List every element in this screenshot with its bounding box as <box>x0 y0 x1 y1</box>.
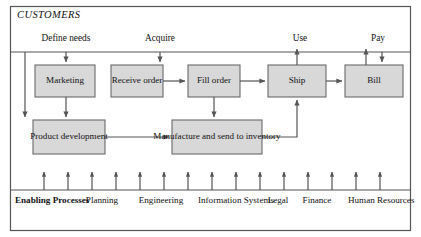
enabling-process-planning: Planning <box>76 196 128 206</box>
diagram-canvas: CUSTOMERS Define needs Acquire Use Pay M… <box>0 0 421 237</box>
customers-title: CUSTOMERS <box>17 9 81 20</box>
customer-activity-define-needs: Define needs <box>16 33 116 43</box>
process-box-fill-order: Fill order <box>188 65 240 97</box>
enabling-process-human-resources: Human Resources <box>348 196 406 206</box>
enabling-process-arrows <box>44 172 380 190</box>
enabling-process-engineering: Engineering <box>128 196 194 206</box>
process-box-manufacture-inventory: Manufacture and send to inventory <box>172 120 262 154</box>
process-box-receive-order: Receive order <box>111 65 163 97</box>
process-box-ship: Ship <box>268 65 326 97</box>
process-box-product-development: Product development <box>33 120 105 154</box>
process-box-bill: Bill <box>345 65 403 97</box>
enabling-process-enabling-processes: Enabling Processes <box>15 196 77 206</box>
enabling-process-legal: Legal <box>258 196 298 206</box>
customer-activity-acquire: Acquire <box>120 33 200 43</box>
process-box-marketing: Marketing <box>35 65 95 97</box>
enabling-process-information-systems: Information Systems <box>198 196 260 206</box>
enabling-process-finance: Finance <box>294 196 340 206</box>
customer-activity-use: Use <box>270 33 330 43</box>
customer-activity-pay: Pay <box>348 33 408 43</box>
